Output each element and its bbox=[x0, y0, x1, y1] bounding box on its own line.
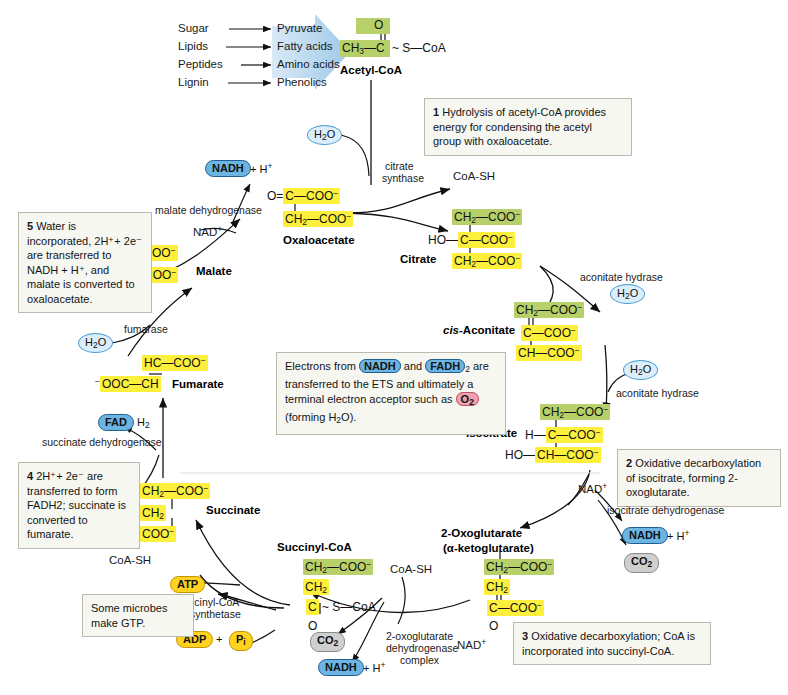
enzyme-oxoglutarate-dh-line1: 2-oxoglutarate bbox=[386, 630, 453, 642]
callout-ets: Electrons from NADH and FADH2 are transf… bbox=[276, 352, 506, 435]
nadh-suffix-3: + H+ bbox=[363, 660, 385, 674]
callout-step-4: 4 2H⁺+ 2e⁻ are transferred to form FADH2… bbox=[18, 462, 140, 549]
citrate-row1: CH2—COO− bbox=[452, 209, 522, 225]
coa-sh-mid: CoA-SH bbox=[390, 563, 432, 575]
succinyl-coa-label: Succinyl-CoA bbox=[277, 541, 352, 553]
enzyme-citrate-synthase-line1: citrate bbox=[385, 160, 414, 172]
cis-prefix: cis- bbox=[443, 324, 463, 336]
callout-step-2-number: 2 bbox=[626, 457, 632, 469]
nad-plus-1: NAD+ bbox=[193, 224, 222, 238]
nadh-pill-2: NADH bbox=[622, 527, 668, 544]
plus-sign-adp-pi: + bbox=[216, 633, 222, 645]
input-source-1: Lipids bbox=[178, 40, 208, 52]
succinate-row2: CH2 bbox=[140, 506, 166, 521]
input-source-2: Peptides bbox=[178, 58, 223, 70]
callout-step-4-text: 2H⁺+ 2e⁻ are transferred to form FADH2; … bbox=[27, 470, 126, 540]
input-product-3: Phenolics bbox=[277, 76, 327, 88]
enzyme-fumarase: fumarase bbox=[124, 323, 168, 335]
cis-aconitate-row1: CH2—COO− bbox=[514, 302, 584, 318]
succinyl-coa-row4: O bbox=[308, 619, 317, 633]
callout-ets-fadh-sub: 2 bbox=[465, 364, 470, 374]
enzyme-citrate-synthase-line2: synthase bbox=[382, 172, 424, 184]
callout-step-2: 2 Oxidative decarboxylation of isocitrat… bbox=[617, 449, 781, 507]
citrate-label: Citrate bbox=[400, 253, 436, 265]
callout-ets-fadh-pill: FADH bbox=[425, 359, 465, 373]
fadh2-pill: FAD bbox=[98, 414, 134, 431]
enzyme-malate-dehydrogenase: malate dehydrogenase bbox=[155, 204, 262, 216]
succinyl-coa-row1: CH2—COO− bbox=[303, 559, 373, 575]
pi-pill: Pi bbox=[229, 631, 253, 651]
enzyme-oxoglutarate-dh-line2: dehydrogenase bbox=[386, 642, 458, 654]
callout-step-1-number: 1 bbox=[433, 106, 439, 118]
atp-pill: ATP bbox=[170, 576, 205, 593]
co2-pill-2: CO2 bbox=[310, 632, 345, 652]
malate-label: Malate bbox=[196, 265, 232, 277]
callout-ets-part1: Electrons from bbox=[285, 360, 359, 372]
h2o-bubble-1: H2O bbox=[307, 125, 342, 145]
callout-step-2-text: Oxidative decarboxylation of isocitrate,… bbox=[626, 457, 761, 498]
callout-step-3: 3 Oxidative decarboxylation; CoA is inco… bbox=[513, 622, 711, 665]
oxaloacetate-label: Oxaloacetate bbox=[283, 234, 355, 246]
callout-step-5-number: 5 bbox=[27, 220, 33, 232]
callout-step-3-text: Oxidative decarboxylation; CoA is incorp… bbox=[522, 630, 695, 657]
callout-step-5: 5 Water is incorporated, 2H⁺+ 2e⁻ are tr… bbox=[18, 212, 152, 313]
oxoglutarate-label: 2-Oxoglutarate bbox=[441, 527, 522, 539]
oxoglutarate-row1: CH2—COO− bbox=[484, 559, 554, 575]
nadh-suffix-2: + H+ bbox=[667, 528, 689, 542]
callout-ets-nadh-pill: NADH bbox=[359, 359, 401, 373]
figure-canvas: Sugar Pyruvate Lipids Fatty acids Peptid… bbox=[0, 0, 788, 695]
oxoglutarate-row4: O bbox=[489, 619, 498, 633]
h2o-bubble-2: H2O bbox=[610, 284, 645, 304]
acetyl-coa-formula: CH3—C bbox=[342, 41, 385, 56]
enzyme-aconitate-hydrase-2: aconitate hydrase bbox=[616, 387, 699, 399]
input-source-3: Lignin bbox=[178, 76, 209, 88]
h2o-bubble-4: H2O bbox=[78, 333, 113, 353]
cis-aconitate-label: cis-Aconitate bbox=[443, 324, 515, 336]
oxaloacetate-row1: O=C—COO− bbox=[267, 188, 340, 203]
oxoglutarate-row2: CH2 bbox=[484, 580, 510, 595]
callout-gtp-text: Some microbes make GTP. bbox=[91, 602, 167, 629]
isocitrate-row3: HO—CH—COO− bbox=[505, 447, 601, 462]
enzyme-aconitate-hydrase-1: aconitate hydrase bbox=[580, 271, 663, 283]
fumarate-row2: −OOC—CH bbox=[95, 376, 161, 391]
callout-ets-part4: (forming H2O). bbox=[285, 411, 356, 423]
fumarate-label: Fumarate bbox=[172, 378, 224, 390]
acetyl-coa-thioester: ~ S—CoA bbox=[392, 41, 446, 55]
cis-aconitate-row3: CH—COO− bbox=[516, 345, 582, 360]
nadh-suffix-1: + H+ bbox=[250, 161, 272, 175]
citrate-row2: HO—C—COO− bbox=[428, 232, 515, 247]
cis-aconitate-row2: C—COO− bbox=[521, 325, 578, 340]
callout-gtp: Some microbes make GTP. bbox=[82, 594, 194, 637]
isocitrate-row2: H—C—COO− bbox=[525, 427, 603, 442]
succinyl-coa-row3: C ~ S—CoA bbox=[306, 600, 376, 614]
input-product-2: Amino acids bbox=[277, 58, 340, 70]
nadh-pill-1: NADH bbox=[205, 160, 251, 177]
callout-step-1: 1 Hydrolysis of acetyl-CoA provides ener… bbox=[424, 98, 632, 156]
h2o-bubble-3: H2O bbox=[623, 360, 658, 380]
citrate-row3: CH2—COO− bbox=[452, 253, 522, 269]
input-source-0: Sugar bbox=[178, 22, 209, 34]
enzyme-succinate-dehydrogenase: succinate dehydrogenase bbox=[42, 436, 162, 448]
diagram-vector-layer bbox=[0, 0, 788, 695]
coa-sh-left: CoA-SH bbox=[109, 554, 151, 566]
isocitrate-row1: CH2—COO− bbox=[540, 404, 610, 420]
callout-step-1-text: Hydrolysis of acetyl-CoA provides energy… bbox=[433, 106, 606, 147]
callout-step-4-number: 4 bbox=[27, 470, 33, 482]
enzyme-oxoglutarate-dh-line3: complex bbox=[400, 654, 439, 666]
succinate-row1: CH2—COO− bbox=[140, 483, 210, 499]
callout-ets-o2-pill: O2 bbox=[456, 392, 479, 406]
coa-sh-top: CoA-SH bbox=[453, 170, 495, 182]
oxoglutarate-label-alt: (α-ketoglutarate) bbox=[443, 542, 534, 554]
input-product-1: Fatty acids bbox=[277, 40, 333, 52]
callout-step-3-number: 3 bbox=[522, 630, 528, 642]
succinyl-coa-row2: CH2 bbox=[303, 580, 329, 595]
callout-step-5-text: Water is incorporated, 2H⁺+ 2e⁻ are tran… bbox=[27, 220, 142, 305]
nad-plus-2: NAD+ bbox=[578, 481, 607, 495]
succinate-row3: COO− bbox=[140, 526, 176, 541]
succinate-label: Succinate bbox=[206, 504, 260, 516]
oxoglutarate-row3: C—COO− bbox=[487, 600, 544, 615]
nadh-pill-3: NADH bbox=[318, 659, 364, 676]
enzyme-isocitrate-dehydrogenase: isocitrate dehydrogenase bbox=[607, 504, 724, 516]
nad-plus-3: NAD+ bbox=[457, 637, 486, 651]
input-product-0: Pyruvate bbox=[277, 22, 322, 34]
